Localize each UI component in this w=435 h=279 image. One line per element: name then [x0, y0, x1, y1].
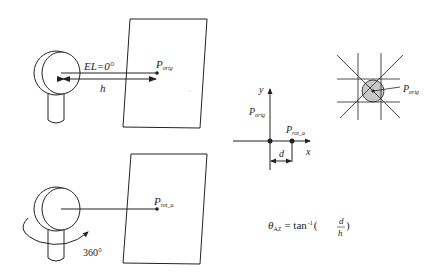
point-orig-label: Porig [155, 58, 173, 71]
formula-close: ) [346, 219, 350, 232]
offset-d-label: d [279, 148, 285, 159]
azimuth-formula: θAZ= tan-1( d h ) [268, 216, 350, 238]
axes-rot-label: Prot_a [285, 124, 305, 136]
diagram-canvas: EL=0° h Porig 360° Prot_a y x d Porig Pr… [0, 0, 435, 279]
point-orig [155, 71, 159, 75]
point-rot-a [155, 207, 159, 211]
diagram-svg: EL=0° h Porig 360° Prot_a y x d Porig Pr… [0, 0, 435, 279]
grid-orig-label: Porig [402, 83, 419, 95]
origin-point [268, 139, 273, 144]
axes-diagram: y x d Porig Prot_a [233, 84, 311, 170]
svg-text:θAZ= tan-1(: θAZ= tan-1( [268, 219, 318, 232]
elevation-label: EL=0° [83, 60, 115, 72]
bottom-panel: 360° Prot_a [23, 154, 207, 264]
y-axis-label: y [258, 84, 264, 95]
point-rot-a-label: Prot_a [153, 195, 174, 208]
rotation-label: 360° [83, 247, 102, 258]
grid-diagram [337, 53, 403, 120]
x-axis-label: x [305, 146, 311, 157]
distance-h-label: h [100, 82, 106, 94]
sensor-head-icon [34, 51, 80, 123]
formula-numerator: d [339, 216, 344, 226]
axes-orig-label: Porig [248, 106, 265, 118]
top-panel: EL=0° h Porig [34, 19, 207, 128]
formula-denominator: h [338, 228, 343, 238]
rotating-sensor-icon [34, 187, 80, 261]
